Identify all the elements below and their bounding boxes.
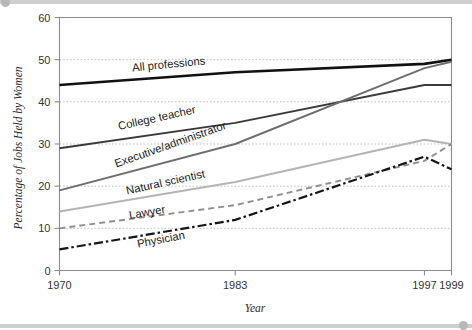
figure-top-border	[0, 0, 472, 4]
y-axis-title: Percentage of Jobs Held by Women	[12, 66, 25, 230]
x-tick-label-1983: 1983	[223, 279, 247, 291]
series-label-physician: Physician	[136, 229, 186, 250]
series-label-college-teacher: College teacher	[117, 103, 197, 132]
x-tick-label-1970: 1970	[47, 279, 71, 291]
series-label-natural-scientist: Natural scientist	[125, 167, 207, 196]
y-tick-label-50: 50	[38, 54, 50, 66]
x-tick-label-1997: 1997	[412, 279, 436, 291]
y-tick-label-40: 40	[38, 96, 50, 108]
x-axis-title: Year	[245, 302, 266, 314]
series-lines-group	[60, 60, 452, 250]
series-label-lawyer: Lawyer	[128, 203, 166, 221]
series-line-college-teacher	[60, 85, 452, 148]
series-label-all-professions: All professions	[132, 54, 207, 73]
x-tick-label-1999: 1999	[439, 279, 463, 291]
figure-bottom-border	[0, 324, 472, 328]
x-tick-labels-group: 1970198319971999	[47, 279, 463, 291]
y-tick-label-60: 60	[38, 12, 50, 24]
y-tick-label-10: 10	[38, 222, 50, 234]
series-line-physician	[60, 157, 452, 250]
y-tick-label-20: 20	[38, 180, 50, 192]
series-labels-group: All professionsCollege teacherExecutive/…	[113, 54, 228, 249]
y-tick-label-30: 30	[38, 138, 50, 150]
bottom-right-marker-dot	[459, 321, 468, 330]
y-tick-labels-group: 0102030405060	[38, 12, 50, 277]
y-tick-label-0: 0	[44, 265, 50, 277]
